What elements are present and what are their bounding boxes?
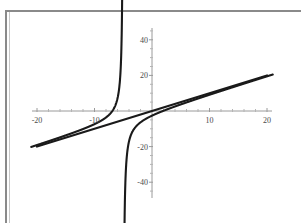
y-tick-label: 20 xyxy=(130,71,148,80)
x-tick-label: -20 xyxy=(32,116,43,125)
y-tick-label: -20 xyxy=(130,142,148,151)
figure-container: -20-101020 4020-20-40 xyxy=(0,0,301,223)
x-tick-label: 20 xyxy=(263,116,271,125)
function-plot xyxy=(0,0,301,223)
y-tick-label: -40 xyxy=(130,178,148,187)
axes-group xyxy=(32,28,272,198)
x-tick-label: -10 xyxy=(89,116,100,125)
y-tick-label: 40 xyxy=(130,35,148,44)
x-tick-label: 10 xyxy=(206,116,214,125)
